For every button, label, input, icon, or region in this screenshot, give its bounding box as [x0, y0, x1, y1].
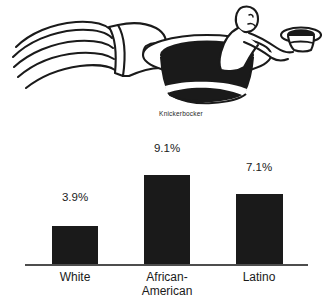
- illustration-caption: Knickerbocker: [0, 110, 322, 117]
- page-root: Knickerbocker 3.9% 9.1% 7.1% White Afric…: [0, 0, 322, 304]
- bar-value-label-white: 3.9%: [29, 191, 121, 203]
- category-label-african-american-line1: African-: [146, 270, 187, 284]
- category-label-african-american-line2: American: [121, 284, 213, 298]
- category-label-latino: Latino: [213, 270, 305, 284]
- bar-value-label-latino: 7.1%: [213, 161, 305, 173]
- bar-chart: 3.9% 9.1% 7.1% White African- American L…: [0, 130, 322, 304]
- category-label-white-line1: White: [60, 270, 91, 284]
- x-axis-line: [25, 264, 308, 266]
- bar-latino: [236, 194, 283, 264]
- bar-african-american: [144, 175, 190, 264]
- chart-plot-area: 3.9% 9.1% 7.1% White African- American L…: [0, 130, 322, 270]
- knickerbocker-illustration: Knickerbocker: [0, 0, 322, 130]
- bar-value-label-african-american: 9.1%: [121, 142, 213, 154]
- category-label-african-american: African- American: [121, 270, 213, 298]
- bar-white: [52, 226, 98, 264]
- category-label-white: White: [29, 270, 121, 284]
- category-label-latino-line1: Latino: [243, 270, 276, 284]
- caption-text: Knickerbocker: [159, 110, 203, 117]
